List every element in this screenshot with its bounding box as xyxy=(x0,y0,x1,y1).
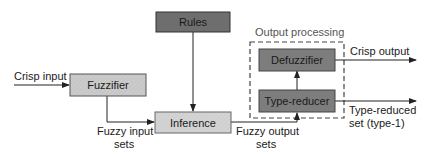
fuzzifier-label: Fuzzifier xyxy=(87,79,129,91)
type-reducer-label: Type-reducer xyxy=(265,95,330,107)
node-rules: Rules xyxy=(156,12,230,32)
type-reduced-label-line2: set (type-1) xyxy=(349,117,405,129)
defuzzifier-label: Defuzzifier xyxy=(271,54,323,66)
crisp-input-label: Crisp input xyxy=(14,70,67,82)
node-defuzzifier: Defuzzifier xyxy=(259,49,335,71)
fuzzy-input-sets-label-line1: Fuzzy input xyxy=(97,125,153,137)
node-inference: Inference xyxy=(155,112,231,133)
inference-label: Inference xyxy=(170,117,216,129)
fuzzy-output-sets-label-line2: sets xyxy=(256,138,277,150)
type-reduced-label-line1: Type-reduced xyxy=(349,104,416,116)
fuzzy-system-diagram: Output processing Rules Fuzzifier Infere… xyxy=(0,0,428,156)
node-fuzzifier: Fuzzifier xyxy=(70,74,146,96)
node-type-reducer: Type-reducer xyxy=(259,90,335,112)
output-processing-label: Output processing xyxy=(255,26,344,38)
edge-fuzzifier-to-inference xyxy=(107,96,154,122)
fuzzy-input-sets-label-line2: sets xyxy=(114,138,135,150)
fuzzy-output-sets-label-line1: Fuzzy output xyxy=(236,125,299,137)
crisp-output-label: Crisp output xyxy=(350,45,409,57)
rules-label: Rules xyxy=(179,16,208,28)
